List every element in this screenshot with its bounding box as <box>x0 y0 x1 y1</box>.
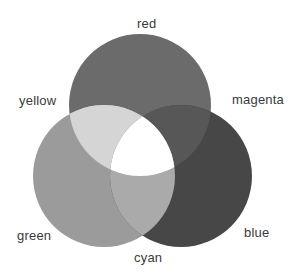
label-cyan: cyan <box>134 251 162 264</box>
label-green: green <box>17 229 51 242</box>
label-yellow: yellow <box>19 94 56 107</box>
label-red: red <box>137 17 156 30</box>
label-magenta: magenta <box>232 93 284 106</box>
label-blue: blue <box>244 226 269 239</box>
